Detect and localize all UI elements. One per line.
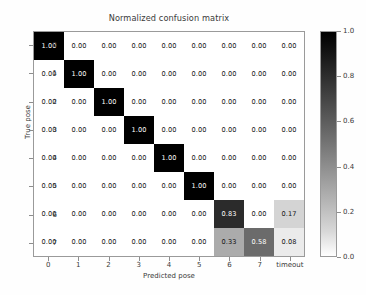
colorbar-tick-mark	[337, 121, 341, 122]
y-tick-label: 3	[37, 126, 57, 134]
matrix-cell: 0.00	[244, 172, 274, 200]
matrix-cell-value: 0.00	[222, 71, 237, 78]
y-tick-mark	[29, 102, 33, 103]
matrix-cell: 0.00	[184, 60, 214, 88]
matrix-cell: 0.00	[94, 60, 124, 88]
matrix-cell: 0.00	[214, 60, 244, 88]
matrix-cell: 0.00	[94, 200, 124, 228]
matrix-cell-value: 0.00	[282, 71, 297, 78]
matrix-cell: 0.00	[124, 172, 154, 200]
matrix-cell-value: 0.00	[222, 43, 237, 50]
matrix-cell-value: 0.00	[132, 239, 147, 246]
matrix-cell-value: 0.00	[222, 155, 237, 162]
matrix-cell: 0.00	[64, 88, 94, 116]
matrix-cell-value: 0.00	[192, 99, 207, 106]
colorbar-tick-label: 0.8	[343, 72, 366, 80]
matrix-cell-value: 0.00	[252, 43, 267, 50]
matrix-cell-value: 0.00	[102, 211, 117, 218]
colorbar-tick-mark	[337, 257, 341, 258]
x-tick-mark	[229, 257, 230, 261]
matrix-cell: 0.00	[184, 116, 214, 144]
matrix-cell-value: 0.00	[132, 71, 147, 78]
matrix-cell: 0.00	[94, 116, 124, 144]
x-tick-mark	[78, 257, 79, 261]
matrix-cell-value: 0.00	[162, 43, 177, 50]
x-tick-mark	[169, 257, 170, 261]
matrix-cell: 0.00	[94, 32, 124, 60]
matrix-cell-value: 0.00	[252, 99, 267, 106]
matrix-cell: 1.00	[154, 144, 184, 172]
matrix-cell: 0.00	[244, 200, 274, 228]
matrix-cell: 0.00	[244, 32, 274, 60]
x-tick-mark	[48, 257, 49, 261]
matrix-cell-value: 0.00	[72, 183, 87, 190]
matrix-cell-value: 0.00	[282, 183, 297, 190]
matrix-cell-value: 0.00	[72, 211, 87, 218]
x-tick-mark	[199, 257, 200, 261]
matrix-cell-value: 1.00	[192, 183, 207, 190]
matrix-cell: 0.00	[214, 32, 244, 60]
x-tick-mark	[290, 257, 291, 261]
matrix-cell: 0.00	[244, 60, 274, 88]
colorbar	[320, 31, 337, 257]
matrix-cell-value: 0.00	[162, 239, 177, 246]
matrix-cell: 0.00	[154, 200, 184, 228]
matrix-cell: 0.00	[214, 144, 244, 172]
matrix-cell-value: 0.00	[282, 43, 297, 50]
y-tick-mark	[29, 45, 33, 46]
matrix-cell-value: 0.00	[162, 183, 177, 190]
matrix-cell: 0.00	[94, 172, 124, 200]
matrix-cell-value: 0.08	[282, 239, 297, 246]
matrix-cell: 0.00	[184, 144, 214, 172]
matrix-cell-value: 0.00	[72, 43, 87, 50]
matrix-cell: 0.00	[94, 144, 124, 172]
colorbar-tick-label: 1.0	[343, 27, 366, 35]
matrix-grid: 1.000.000.000.000.000.000.000.000.000.00…	[34, 32, 304, 256]
y-tick-label: 6	[37, 211, 57, 219]
matrix-cell-value: 0.00	[132, 155, 147, 162]
matrix-cell: 0.17	[274, 200, 304, 228]
matrix-cell-value: 0.00	[192, 239, 207, 246]
matrix-cell-value: 0.00	[132, 43, 147, 50]
matrix-cell-value: 0.00	[162, 127, 177, 134]
matrix-cell: 0.00	[184, 200, 214, 228]
y-tick-mark	[29, 130, 33, 131]
matrix-cell: 0.00	[94, 228, 124, 256]
y-tick-label: 7	[37, 239, 57, 247]
matrix-cell: 0.00	[154, 60, 184, 88]
matrix-cell-value: 0.00	[252, 211, 267, 218]
matrix-cell-value: 0.00	[282, 127, 297, 134]
matrix-cell-value: 0.83	[222, 211, 237, 218]
matrix-cell: 0.00	[64, 144, 94, 172]
matrix-cell-value: 0.00	[102, 71, 117, 78]
matrix-cell: 0.00	[154, 88, 184, 116]
y-tick-mark	[29, 73, 33, 74]
matrix-cell: 0.00	[214, 88, 244, 116]
matrix-cell: 0.00	[124, 88, 154, 116]
matrix-cell: 0.00	[214, 172, 244, 200]
matrix-cell: 0.08	[274, 228, 304, 256]
matrix-cell-value: 0.00	[192, 155, 207, 162]
matrix-cell-value: 0.00	[132, 183, 147, 190]
y-tick-label: 2	[37, 98, 57, 106]
matrix-cell-value: 0.00	[72, 239, 87, 246]
matrix-cell-value: 0.00	[102, 183, 117, 190]
matrix-cell-value: 0.00	[132, 211, 147, 218]
matrix-cell-value: 0.00	[102, 43, 117, 50]
y-tick-mark	[29, 186, 33, 187]
matrix-cell-value: 0.58	[252, 239, 267, 246]
colorbar-tick-label: 0.2	[343, 208, 366, 216]
matrix-cell-value: 0.00	[72, 99, 87, 106]
confusion-matrix-figure: Normalized confusion matrix True pose 1.…	[0, 0, 366, 295]
y-tick-mark	[29, 158, 33, 159]
colorbar-tick-label: 0.4	[343, 163, 366, 171]
colorbar-tick-mark	[337, 76, 341, 77]
matrix-cell-value: 1.00	[132, 127, 147, 134]
matrix-cell-value: 0.00	[162, 211, 177, 218]
matrix-cell: 0.00	[154, 228, 184, 256]
matrix-cell: 0.00	[244, 144, 274, 172]
matrix-cell-value: 0.00	[222, 183, 237, 190]
matrix-cell: 0.00	[64, 228, 94, 256]
matrix-cell: 0.00	[64, 32, 94, 60]
matrix-cell-value: 0.00	[102, 127, 117, 134]
